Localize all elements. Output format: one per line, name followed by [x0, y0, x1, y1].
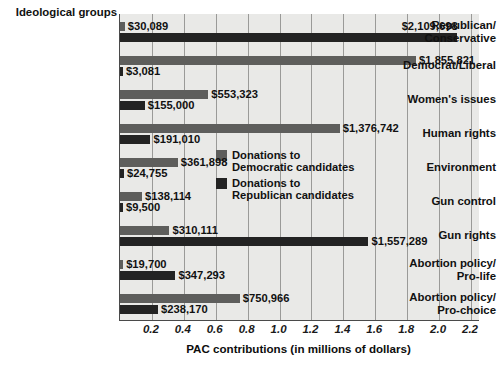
x-tick-label: 0.2 — [143, 323, 159, 335]
bar-value-label: $238,170 — [161, 304, 208, 315]
x-tick-label: 1.2 — [302, 323, 318, 335]
legend-swatch-republican — [216, 178, 227, 189]
bar-republican — [120, 203, 123, 212]
bar-democratic — [120, 294, 240, 303]
x-tick-label: 0.8 — [239, 323, 255, 335]
bar-democratic — [120, 56, 416, 65]
category-label: Human rights — [381, 127, 500, 140]
category-label: Women's issues — [381, 93, 500, 106]
bar-chart: Ideological groups Donations to Democrat… — [0, 0, 500, 365]
group-axis-title: Ideological groups — [0, 6, 117, 18]
bar-value-label: $9,500 — [126, 202, 160, 213]
bar-value-label: $191,010 — [153, 134, 200, 145]
bar-republican — [120, 101, 145, 110]
category-label: Gun control — [381, 195, 500, 208]
bar-value-label: $1,557,289 — [371, 236, 427, 247]
x-tick-label: 1.0 — [271, 323, 287, 335]
bar-value-label: $2,109,698 — [402, 21, 458, 32]
bar-democratic — [120, 260, 123, 269]
x-tick-label: 1.6 — [366, 323, 382, 335]
bar-value-label: $3,081 — [126, 66, 160, 77]
category-label: Abortion policy/ Pro-choice — [381, 291, 500, 317]
bar-value-label: $553,323 — [211, 89, 258, 100]
bar-value-label: $155,000 — [148, 100, 195, 111]
bar-republican — [120, 237, 368, 246]
x-tick-label: 2.2 — [462, 323, 478, 335]
bar-value-label: $750,966 — [243, 293, 290, 304]
bar-democratic — [120, 226, 169, 235]
bar-value-label: $361,898 — [181, 157, 228, 168]
bar-value-label: $347,293 — [178, 270, 225, 281]
bar-democratic — [120, 22, 125, 31]
bar-republican — [120, 169, 124, 178]
bar-value-label: $310,111 — [172, 225, 217, 236]
chart-legend: Donations to Democratic candidatesDonati… — [216, 149, 355, 205]
bar-value-label: $1,855,821 — [419, 55, 475, 66]
bar-republican — [120, 67, 123, 76]
bar-democratic — [120, 90, 208, 99]
bar-republican — [120, 271, 175, 280]
bar-value-label: $24,755 — [127, 168, 167, 179]
x-tick-label: 0.6 — [207, 323, 223, 335]
x-tick-label: 1.4 — [334, 323, 350, 335]
legend-label: Donations to Republican candidates — [232, 177, 354, 202]
x-tick-label: 0.4 — [175, 323, 191, 335]
bar-republican — [120, 305, 158, 314]
x-tick-label: 1.8 — [398, 323, 414, 335]
bar-value-label: $19,700 — [126, 259, 166, 270]
legend-item: Donations to Democratic candidates — [216, 149, 355, 174]
bar-republican — [120, 135, 150, 144]
bar-democratic — [120, 158, 178, 167]
legend-item: Donations to Republican candidates — [216, 177, 355, 202]
bar-democratic — [120, 124, 340, 133]
legend-label: Donations to Democratic candidates — [232, 149, 355, 174]
category-label: Abortion policy/ Pro-life — [381, 257, 500, 283]
x-axis-title: PAC contributions (in millions of dollar… — [119, 342, 478, 355]
bar-value-label: $1,376,742 — [343, 123, 399, 134]
bar-value-label: $30,089 — [128, 21, 168, 32]
bar-democratic — [120, 192, 142, 201]
x-tick-label: 2.0 — [430, 323, 446, 335]
category-label: Environment — [381, 161, 500, 174]
